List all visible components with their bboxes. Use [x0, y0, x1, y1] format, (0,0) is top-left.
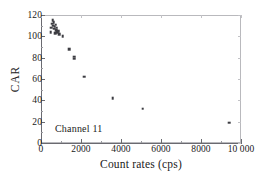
- x-tick: [121, 139, 122, 143]
- y-tick-label: 100: [27, 31, 42, 42]
- y-tick-minor: [41, 68, 43, 69]
- scatter-plot-figure: 0200040006000800010 000 020406080100120 …: [0, 0, 267, 180]
- y-tick-minor: [41, 47, 43, 48]
- data-point: [141, 108, 144, 111]
- y-tick-right: [238, 122, 241, 123]
- x-tick-label: 10 000: [228, 144, 255, 155]
- data-point: [56, 27, 59, 30]
- x-tick-minor: [221, 141, 222, 143]
- data-point: [54, 23, 57, 26]
- x-tick-top: [201, 15, 202, 18]
- y-tick-label: 20: [32, 116, 42, 127]
- x-tick-label: 2000: [71, 144, 90, 155]
- y-tick-right: [238, 100, 241, 101]
- x-axis-label: Count rates (cps): [41, 158, 241, 170]
- x-tick: [81, 139, 82, 143]
- x-tick-top: [241, 15, 242, 18]
- data-point: [111, 97, 114, 100]
- x-tick: [161, 139, 162, 143]
- y-tick-right: [238, 15, 241, 16]
- x-tick-minor: [141, 141, 142, 143]
- x-tick-top: [161, 15, 162, 18]
- x-tick-minor: [181, 141, 182, 143]
- x-tick-minor: [61, 141, 62, 143]
- x-tick-minor: [101, 141, 102, 143]
- data-point: [83, 76, 86, 79]
- data-point: [61, 35, 64, 38]
- y-tick-right: [238, 79, 241, 80]
- y-tick-label: 120: [27, 10, 42, 21]
- x-tick-top: [81, 15, 82, 18]
- channel-annotation: Channel 11: [55, 123, 102, 134]
- data-point: [68, 48, 71, 51]
- x-tick-label: 6000: [151, 144, 170, 155]
- y-tick-label: 0: [37, 138, 42, 149]
- y-axis-label: CAR: [9, 66, 21, 92]
- y-tick-minor: [41, 132, 43, 133]
- y-tick-right: [238, 58, 241, 59]
- y-tick-right: [238, 36, 241, 37]
- data-point: [58, 33, 61, 36]
- data-point: [49, 31, 52, 34]
- y-tick-minor: [41, 111, 43, 112]
- y-tick-label: 60: [32, 74, 42, 85]
- x-tick: [241, 139, 242, 143]
- y-tick-label: 80: [32, 52, 42, 63]
- x-tick: [201, 139, 202, 143]
- data-point: [228, 121, 231, 124]
- y-tick-minor: [41, 90, 43, 91]
- x-tick-label: 4000: [111, 144, 130, 155]
- x-tick-top: [121, 15, 122, 18]
- x-tick-label: 8000: [191, 144, 210, 155]
- data-point: [73, 57, 76, 60]
- y-tick-label: 40: [32, 95, 42, 106]
- y-tick-minor: [41, 26, 43, 27]
